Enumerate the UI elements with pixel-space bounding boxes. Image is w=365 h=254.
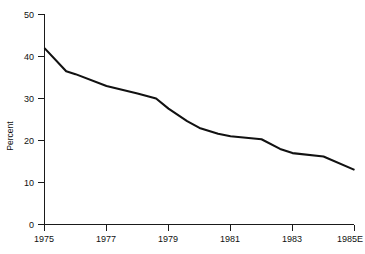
x-tick-label-1981: 1981	[220, 234, 240, 244]
x-tick-label-1985E: 1985E	[337, 234, 363, 244]
y-tick-label-0: 0	[29, 220, 34, 230]
chart-figure: 0 10 20 30 40 50 Percent 1975 1977 1979 …	[0, 0, 365, 254]
x-tick-label-1983: 1983	[282, 234, 302, 244]
x-tick-label-1975: 1975	[34, 234, 54, 244]
y-axis-title: Percent	[5, 121, 15, 151]
y-tick-label-40: 40	[24, 52, 34, 62]
line-chart-plot: 0 10 20 30 40 50 Percent 1975 1977 1979 …	[0, 0, 365, 254]
x-tick-label-1979: 1979	[158, 234, 178, 244]
y-tick-label-20: 20	[24, 136, 34, 146]
y-tick-label-30: 30	[24, 94, 34, 104]
y-tick-label-10: 10	[24, 178, 34, 188]
y-tick-label-50: 50	[24, 10, 34, 20]
chart-background	[0, 0, 365, 254]
x-tick-label-1977: 1977	[96, 234, 116, 244]
